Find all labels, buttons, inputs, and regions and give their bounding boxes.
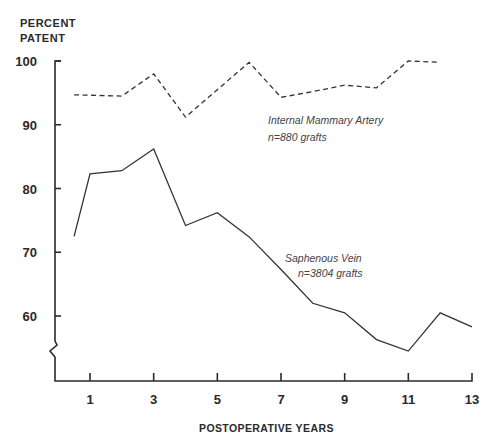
y-tick-label: 80: [23, 182, 37, 197]
x-tick-label: 7: [277, 392, 284, 407]
annotation-ima-name: Internal Mammary Artery: [268, 114, 384, 126]
annotation-ima-count: n=880 grafts: [268, 131, 327, 143]
x-tick-label: 5: [214, 392, 221, 407]
axes: [50, 61, 472, 381]
y-tick-label: 70: [23, 245, 37, 260]
chart-canvas: PERCENT PATENT 60708090100 135791113 Int…: [0, 0, 496, 443]
annotation-sv-count: n=3804 grafts: [298, 267, 363, 279]
y-tick-label: 100: [15, 54, 37, 69]
annotation-sv-name: Saphenous Vein: [285, 252, 362, 264]
x-axis-title: POSTOPERATIVE YEARS: [199, 422, 334, 434]
x-tick-label: 13: [465, 392, 479, 407]
y-axis-ticks: 60708090100: [15, 54, 61, 324]
x-axis-ticks: 135791113: [86, 373, 479, 407]
x-tick-label: 9: [341, 392, 348, 407]
y-tick-label: 90: [23, 118, 37, 133]
series-internal-mammary-artery-line: [74, 61, 440, 117]
x-tick-label: 3: [150, 392, 157, 407]
x-tick-label: 1: [86, 392, 93, 407]
patency-line-chart: PERCENT PATENT 60708090100 135791113 Int…: [0, 0, 496, 443]
x-tick-label: 11: [401, 392, 415, 407]
y-axis-title-line2: PATENT: [20, 32, 65, 44]
axis-lines: [50, 61, 472, 381]
y-tick-label: 60: [23, 309, 37, 324]
series-saphenous-vein-line: [74, 149, 472, 351]
y-axis-title-line1: PERCENT: [20, 17, 76, 29]
